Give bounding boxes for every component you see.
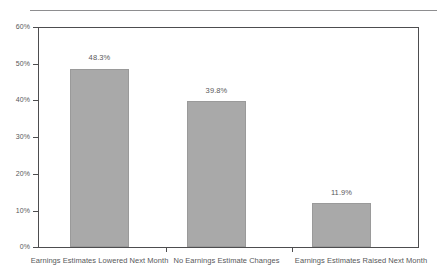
bar-value-label: 39.8%	[187, 86, 246, 95]
bar-earnings-raised	[312, 203, 371, 247]
y-axis-tick	[33, 174, 38, 175]
x-axis-category-label: Earnings Estimates Raised Next Month	[282, 256, 440, 266]
bar-value-label: 11.9%	[312, 188, 371, 197]
y-axis-label: 0%	[20, 243, 30, 251]
y-axis-tick	[33, 247, 38, 248]
x-axis-category-label: Earnings Estimates Lowered Next Month	[22, 256, 177, 266]
y-axis-label: 10%	[16, 207, 30, 215]
top-divider-rule	[30, 10, 437, 11]
y-axis-tick	[33, 211, 38, 212]
y-axis-tick	[33, 64, 38, 65]
bar-chart-figure: 60% 50% 40% 30% 20% 10% 0% 48.3% 39.8% 1…	[0, 0, 442, 279]
y-axis-tick	[33, 137, 38, 138]
bar-earnings-lowered	[70, 69, 129, 247]
y-axis-label: 20%	[16, 170, 30, 178]
y-axis-label: 60%	[16, 23, 30, 31]
x-axis-category-label: No Earnings Estimate Changes	[158, 256, 295, 266]
bar-value-label: 48.3%	[70, 53, 129, 62]
x-axis-tick	[166, 248, 167, 252]
y-axis-label: 50%	[16, 60, 30, 68]
y-axis-label: 40%	[16, 96, 30, 104]
bar-no-change	[187, 101, 246, 247]
y-axis-tick	[33, 100, 38, 101]
x-axis-tick	[292, 248, 293, 252]
y-axis-label: 30%	[16, 133, 30, 141]
y-axis-tick	[33, 27, 38, 28]
